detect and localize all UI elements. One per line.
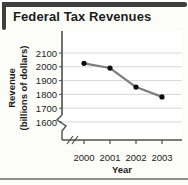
x-tick-label: 2000 xyxy=(73,152,94,163)
y-axis-title: Revenue xyxy=(6,68,17,108)
y-tick-label: 1700 xyxy=(36,103,57,114)
data-point xyxy=(107,65,112,70)
y-tick-label: 2100 xyxy=(36,48,57,59)
y-tick-label: 1800 xyxy=(36,89,57,100)
y-tick-label: 1900 xyxy=(36,75,57,86)
data-point xyxy=(133,84,138,89)
x-tick-label: 2002 xyxy=(125,152,146,163)
bottom-rule xyxy=(0,178,188,180)
figure-federal-tax-revenues: Federal Tax Revenues 1600170018001900200… xyxy=(0,0,188,185)
data-point xyxy=(159,94,164,99)
y-axis-title: (billions of dollars) xyxy=(18,46,29,131)
plot-area xyxy=(62,31,182,140)
x-tick-label: 2003 xyxy=(151,152,172,163)
line-chart: 1600170018001900200021002000200120022003… xyxy=(0,0,188,185)
x-tick-label: 2001 xyxy=(99,152,120,163)
data-point xyxy=(81,61,86,66)
x-axis-title: Year xyxy=(112,164,132,175)
y-tick-label: 2000 xyxy=(36,61,57,72)
y-tick-label: 1600 xyxy=(36,117,57,128)
